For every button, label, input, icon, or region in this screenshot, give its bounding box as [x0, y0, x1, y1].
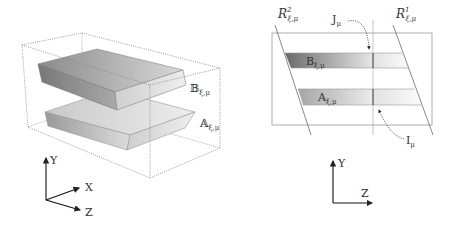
- band-A: [298, 89, 421, 105]
- axis-label-z: Z: [85, 206, 93, 219]
- axis-label-x: X: [85, 181, 93, 194]
- label-R2: R2ξ,μ: [277, 6, 299, 23]
- axis-label-y: Y: [49, 154, 58, 167]
- x-axis-arrow: [46, 188, 79, 200]
- slab-B: [38, 49, 186, 110]
- label-I-mu: Iμ: [406, 134, 415, 149]
- axis-label-z-right: Z: [361, 187, 369, 200]
- label-J-mu: Jμ: [331, 13, 341, 28]
- label-B-xi-mu: 𝔹ξ,μ: [190, 82, 210, 97]
- z-axis-arrow: [46, 200, 80, 210]
- diagram-canvas: 𝔹ξ,μ 𝔸ξ,μ Y X Z: [0, 0, 452, 229]
- band-B: [285, 53, 408, 68]
- axis-label-y-right: Y: [337, 157, 346, 170]
- I-pointer-arrow: [379, 110, 404, 139]
- R1-boundary-line: [393, 25, 433, 135]
- section-frame: [272, 33, 432, 125]
- left-3d-view: 𝔹ξ,μ 𝔸ξ,μ Y X Z: [22, 33, 220, 219]
- J-pointer-arrow: [348, 21, 369, 49]
- label-A-xi-mu: 𝔸ξ,μ: [199, 117, 220, 132]
- right-cross-section-view: Bξ,μ Aξ,μ R2ξ,μ R1ξ,μ Jμ Iμ Y Z: [272, 6, 433, 203]
- R2-boundary-line: [275, 25, 311, 135]
- label-R1: R1ξ,μ: [395, 6, 417, 23]
